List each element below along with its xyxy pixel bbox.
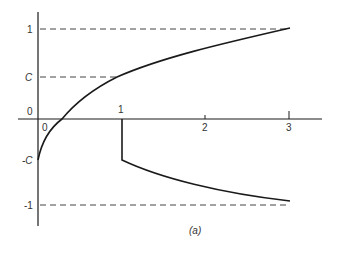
x-label-three: 3 [286,122,292,133]
figure-canvas: 1 C 0 -C -1 0 1 2 3 (a) [0,0,340,256]
upper-branch-curve [38,28,290,160]
y-label-one: 1 [27,24,33,35]
y-label-zero: 0 [27,106,33,117]
x-label-one: 1 [118,104,124,115]
y-label-neg-c: -C [22,155,33,166]
x-label-zero: 0 [42,122,48,133]
x-label-two: 2 [202,122,208,133]
figure-caption: (a) [189,225,201,236]
y-label-neg-one: -1 [24,200,33,211]
y-label-c: C [25,72,33,83]
